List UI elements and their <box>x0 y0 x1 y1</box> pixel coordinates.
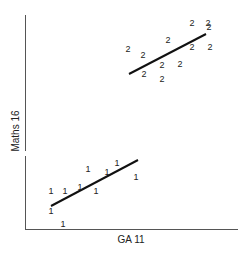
data-point-marker: 2 <box>141 69 146 79</box>
data-point-marker: 1 <box>48 206 53 216</box>
data-point-marker: 2 <box>207 42 212 52</box>
series-2: 222222222222 <box>125 18 212 84</box>
data-point-marker: 1 <box>114 158 119 168</box>
y-axis-label: Maths 16 <box>10 110 21 152</box>
fit-line-1 <box>51 160 138 206</box>
data-point-marker: 2 <box>159 74 164 84</box>
scatter-chart: 1111111111222222222222 GA 11 Maths 16 <box>0 0 252 253</box>
data-point-marker: 1 <box>93 186 98 196</box>
data-point-marker: 2 <box>165 35 170 45</box>
data-point-marker: 1 <box>133 172 138 182</box>
x-axis-label: GA 11 <box>117 234 144 245</box>
data-point-marker: 2 <box>189 42 194 52</box>
data-point-marker: 2 <box>189 18 194 28</box>
data-point-marker: 1 <box>48 186 53 196</box>
data-point-marker: 2 <box>159 60 164 70</box>
data-point-marker: 2 <box>206 22 211 32</box>
data-point-marker: 2 <box>140 50 145 60</box>
data-point-marker: 1 <box>77 182 82 192</box>
data-point-marker: 1 <box>104 167 109 177</box>
series-layer: 1111111111222222222222 <box>48 18 212 229</box>
data-point-marker: 1 <box>85 164 90 174</box>
series-1: 1111111111 <box>48 158 138 229</box>
data-point-marker: 1 <box>60 219 65 229</box>
data-point-marker: 2 <box>125 44 130 54</box>
data-point-marker: 1 <box>62 186 67 196</box>
data-point-marker: 2 <box>177 59 182 69</box>
